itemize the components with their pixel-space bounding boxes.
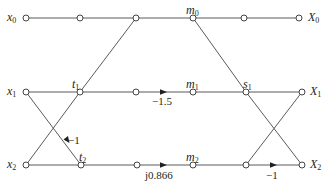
label-x2: x2 [7, 158, 16, 172]
label-s1: s1 [243, 78, 252, 92]
label-t1: t1 [72, 78, 79, 92]
label-x1: x1 [7, 85, 16, 99]
node-r0c2 [133, 15, 139, 21]
label-t2: t2 [79, 151, 86, 165]
node-r0c1 [77, 15, 83, 21]
node-x2 [23, 162, 29, 168]
gain-x1-to-t2: −1 [68, 135, 80, 146]
node-X2 [299, 162, 305, 168]
signal-flow-graph [0, 0, 328, 188]
arrow-row2-mult [160, 162, 167, 168]
label-m0: m0 [186, 4, 199, 18]
node-r0c4 [241, 15, 247, 21]
gain-row2-mult: j0.866 [145, 170, 173, 181]
label-X2: X2 [310, 158, 321, 172]
node-x1 [23, 89, 29, 95]
node-r2c2 [134, 162, 140, 168]
label-X1: X1 [310, 85, 321, 99]
branch-m0-to-s1 [193, 18, 246, 92]
node-r1c2 [133, 89, 139, 95]
arrow-row2-out [270, 162, 277, 168]
label-X0: X0 [308, 11, 319, 25]
gain-row2-out: −1 [266, 170, 278, 181]
node-r2c4 [243, 162, 249, 168]
arrow-row1-mult [160, 89, 167, 95]
label-m1: m1 [186, 78, 199, 92]
label-m2: m2 [186, 151, 199, 165]
node-X1 [299, 89, 305, 95]
label-x0: x0 [7, 11, 16, 25]
gain-row1-mult: −1.5 [152, 96, 172, 107]
node-X0 [296, 15, 302, 21]
node-x0 [23, 15, 29, 21]
branch-t1-to-m0-path [80, 18, 136, 92]
